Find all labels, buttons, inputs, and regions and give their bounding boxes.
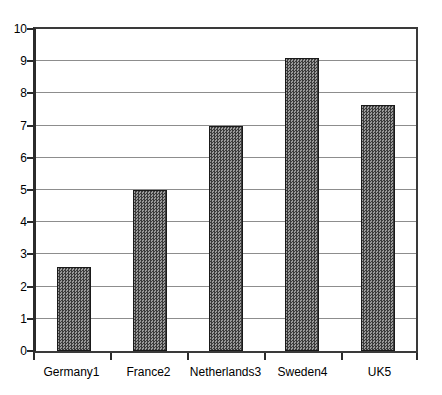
y-axis-tick-label: 1 — [20, 313, 27, 325]
y-axis-tick-label: 3 — [20, 248, 27, 260]
x-axis-category-label: Netherlands3 — [187, 363, 264, 385]
x-axis-category-labels: Germany1France2Netherlands3Sweden4UK5 — [33, 363, 418, 385]
bar[interactable] — [133, 190, 167, 351]
x-axis-tick-mark — [416, 353, 418, 360]
bar-slot — [112, 29, 188, 351]
x-axis-tick-mark — [110, 353, 112, 360]
y-axis-tick-label: 0 — [20, 345, 27, 357]
bar[interactable] — [209, 126, 243, 351]
bars-group — [36, 29, 416, 351]
x-axis-tick-mark — [341, 353, 343, 360]
y-axis-tick-label: 10 — [14, 23, 27, 35]
x-axis-category-label: Germany1 — [33, 363, 110, 385]
bar-slot — [36, 29, 112, 351]
bar[interactable] — [57, 267, 91, 351]
y-axis-tick-label: 5 — [20, 184, 27, 196]
x-axis-tick-marks — [33, 353, 418, 360]
y-axis-tick-label: 7 — [20, 120, 27, 132]
bar[interactable] — [285, 58, 319, 351]
bar-slot — [264, 29, 340, 351]
x-axis-tick-mark — [264, 353, 266, 360]
plot-area — [33, 27, 418, 353]
y-axis-tick-labels: 109876543210 — [0, 27, 27, 353]
y-axis-tick-label: 6 — [20, 152, 27, 164]
x-axis-tick-mark — [187, 353, 189, 360]
x-axis-category-label: UK5 — [341, 363, 418, 385]
x-axis-tick-mark — [33, 353, 35, 360]
y-axis-tick-label: 9 — [20, 55, 27, 67]
bar-chart-figure: 109876543210 Germany1France2Netherlands3… — [0, 0, 442, 395]
bar-slot — [340, 29, 416, 351]
y-axis-tick-label: 4 — [20, 216, 27, 228]
y-axis-tick-label: 2 — [20, 281, 27, 293]
x-axis-category-label: France2 — [110, 363, 187, 385]
bar-slot — [188, 29, 264, 351]
x-axis-category-label: Sweden4 — [264, 363, 341, 385]
bar[interactable] — [361, 105, 395, 351]
y-axis-tick-label: 8 — [20, 87, 27, 99]
